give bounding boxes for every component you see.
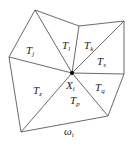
triangle-label-k: Tk (84, 39, 94, 53)
triangle-mesh-diagram: Xi TjTlTkTsTqTpTz ωi (0, 0, 133, 147)
triangle-label-s: Ts (97, 55, 106, 69)
triangle-label-q: Tq (95, 81, 105, 95)
center-node (70, 71, 74, 75)
triangle-label-z: Tz (33, 84, 42, 98)
triangle-label-j: Tj (26, 44, 34, 58)
triangle-label-l: Tl (62, 39, 70, 53)
outer-boundary (9, 10, 124, 132)
triangle-label-p: Tp (70, 94, 80, 108)
region-label: ωi (64, 125, 74, 139)
center-label: Xi (65, 79, 75, 93)
mesh-edges (9, 10, 124, 132)
